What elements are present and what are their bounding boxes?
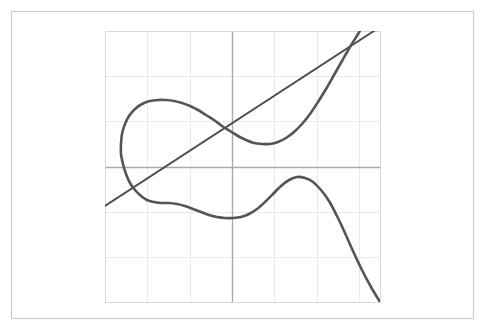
series-straight-line [105, 27, 380, 206]
outer-frame [12, 12, 474, 319]
chart-svg [0, 0, 484, 331]
series-looped-curve [121, 24, 380, 302]
outer-frame-group [12, 12, 474, 319]
axis-lines-group [105, 31, 380, 302]
data-series-group [105, 24, 380, 302]
grid-lines-group [105, 31, 380, 303]
figure-container [0, 0, 484, 331]
